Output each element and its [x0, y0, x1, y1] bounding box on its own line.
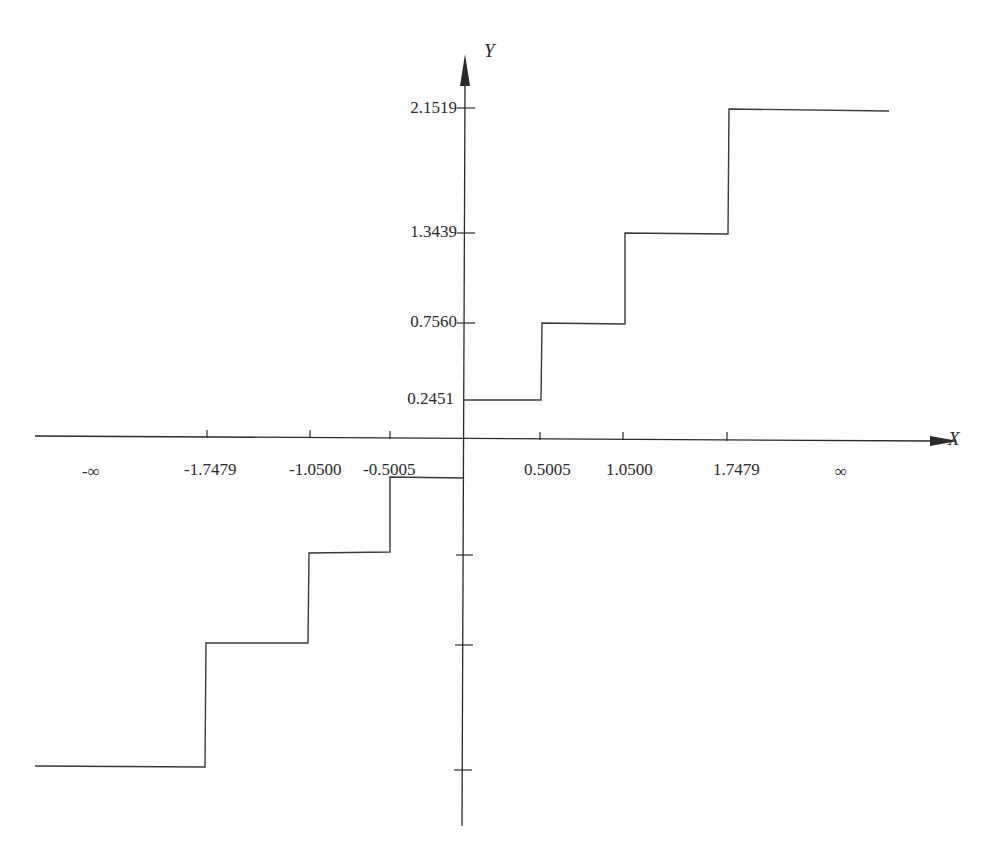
step-curve-negative — [35, 477, 464, 767]
step-curve-positive — [464, 109, 889, 400]
x-axis-label: X — [948, 428, 960, 450]
x-tick-label: 0.5005 — [524, 460, 571, 480]
x-axis — [35, 430, 958, 446]
x-tick-label: 1.0500 — [606, 460, 653, 480]
y-tick-label: 1.3439 — [377, 222, 457, 242]
y-axis — [454, 54, 475, 826]
y-axis-label: Y — [484, 40, 495, 62]
y-tick-label: 2.1519 — [377, 98, 457, 118]
x-tick-label: -1.7479 — [184, 460, 236, 480]
y-axis-arrow-icon — [460, 54, 470, 86]
quantizer-plot — [0, 0, 1005, 856]
x-tick-label: -1.0500 — [289, 460, 341, 480]
x-tick-label: 1.7479 — [713, 460, 760, 480]
x-tick-label: ∞ — [835, 462, 847, 482]
y-tick-label: 0.2451 — [374, 389, 454, 409]
y-tick-label: 0.7560 — [377, 312, 457, 332]
x-tick-label: -∞ — [82, 462, 100, 482]
x-tick-label: -0.5005 — [363, 460, 415, 480]
